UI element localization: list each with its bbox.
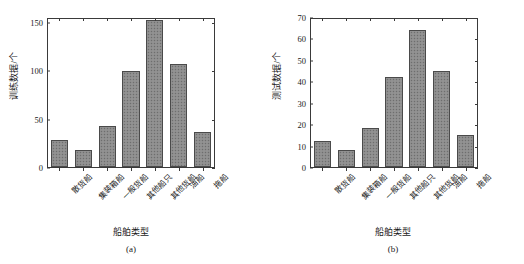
y-tick-mark — [310, 60, 313, 61]
y-tick-label: 20 — [298, 121, 307, 130]
x-tick-mark-top — [131, 18, 132, 21]
bar-column — [48, 19, 72, 167]
x-tick-mark-top — [394, 18, 395, 21]
x-tick-mark — [155, 168, 156, 171]
bar-column — [430, 19, 454, 167]
x-tick-mark — [107, 168, 108, 171]
y-tick-label: 0 — [302, 164, 306, 173]
bar-column — [358, 19, 382, 167]
y-tick-mark — [310, 168, 313, 169]
x-tick-mark-top — [346, 18, 347, 21]
y-tick-mark — [310, 39, 313, 40]
bar — [433, 71, 450, 167]
y-tick-mark — [310, 82, 313, 83]
y-tick-mark-right — [212, 120, 215, 121]
bar — [170, 64, 187, 167]
bar-column — [143, 19, 167, 167]
y-tick-label: 40 — [298, 78, 307, 87]
bar — [362, 128, 379, 167]
x-axis-title-b: 船舶类型 — [262, 225, 524, 238]
y-tick-label: 50 — [298, 57, 307, 66]
y-tick-mark-right — [212, 168, 215, 169]
bar-column — [167, 19, 191, 167]
chart-panel-a: 训练数据/个 050100150 散货船集装箱船一般货船其他船只其他货船油船拖船… — [0, 0, 262, 264]
y-tick-mark-right — [475, 18, 478, 19]
y-tick-label: 100 — [30, 67, 43, 76]
bar-column — [311, 19, 335, 167]
panel-caption-b: (b) — [262, 244, 524, 254]
x-tick-mark-top — [179, 18, 180, 21]
x-tick-mark-top — [418, 18, 419, 21]
bar-column — [190, 19, 214, 167]
chart-panel-b: 测试数据/个 010203040506070 散货船集装箱船一般货船其他船只其他… — [262, 0, 524, 264]
y-tick-mark-right — [475, 125, 478, 126]
y-tick-mark — [47, 119, 50, 120]
bar — [146, 20, 163, 167]
x-tick-label: 其他船只 — [408, 173, 436, 201]
x-tick-mark — [179, 168, 180, 171]
bar-column — [72, 19, 96, 167]
y-tick-mark-right — [212, 71, 215, 72]
x-tick-mark — [83, 168, 84, 171]
bar-column — [119, 19, 143, 167]
x-tick-mark-top — [322, 18, 323, 21]
y-tick-mark — [310, 125, 313, 126]
bar-column — [453, 19, 477, 167]
y-tick-label: 60 — [298, 35, 307, 44]
panel-caption-a: (a) — [0, 244, 262, 254]
x-tick-mark — [131, 168, 132, 171]
y-tick-mark — [47, 22, 50, 23]
x-tick-label: 拖船 — [476, 173, 493, 190]
y-tick-label: 150 — [30, 19, 43, 28]
bar — [194, 132, 211, 167]
plot-area-b — [310, 18, 478, 168]
x-tick-label: 散货船 — [334, 173, 357, 196]
bar-column — [382, 19, 406, 167]
y-tick-mark — [310, 146, 313, 147]
y-tick-label: 10 — [298, 142, 307, 151]
x-tick-mark — [370, 168, 371, 171]
bar-column — [406, 19, 430, 167]
bar — [122, 71, 139, 167]
bar — [75, 150, 92, 167]
x-tick-mark-top — [59, 18, 60, 21]
y-tick-label: 70 — [298, 14, 307, 23]
bar — [338, 150, 355, 167]
x-tick-mark — [346, 168, 347, 171]
x-tick-label: 散货船 — [71, 173, 94, 196]
bar-series-b — [311, 19, 477, 167]
y-tick-label: 50 — [35, 115, 44, 124]
y-tick-mark — [310, 103, 313, 104]
x-tick-mark-top — [466, 18, 467, 21]
y-tick-mark — [47, 168, 50, 169]
bar-column — [95, 19, 119, 167]
x-tick-label: 一般货船 — [121, 173, 149, 201]
x-tick-mark-top — [370, 18, 371, 21]
bar — [51, 140, 68, 167]
x-tick-mark-top — [83, 18, 84, 21]
bar — [409, 30, 426, 167]
x-tick-mark — [418, 168, 419, 171]
x-tick-label: 集装箱船 — [97, 173, 125, 201]
x-tick-mark — [322, 168, 323, 171]
x-tick-mark — [59, 168, 60, 171]
x-tick-mark-top — [155, 18, 156, 21]
bar — [99, 126, 116, 167]
x-tick-label: 一般货船 — [384, 173, 412, 201]
ship-type-distribution-figure: 训练数据/个 050100150 散货船集装箱船一般货船其他船只其他货船油船拖船… — [0, 0, 524, 264]
y-tick-mark-right — [475, 39, 478, 40]
bar-series-a — [48, 19, 214, 167]
x-tick-mark — [442, 168, 443, 171]
y-tick-mark-right — [475, 168, 478, 169]
y-tick-mark — [47, 71, 50, 72]
x-tick-mark — [466, 168, 467, 171]
y-tick-mark-right — [475, 61, 478, 62]
y-tick-mark — [310, 18, 313, 19]
y-tick-label: 0 — [39, 164, 43, 173]
y-tick-mark-right — [212, 23, 215, 24]
y-tick-mark-right — [475, 104, 478, 105]
x-tick-mark-top — [107, 18, 108, 21]
x-tick-mark-top — [203, 18, 204, 21]
x-axis-title-a: 船舶类型 — [0, 225, 262, 238]
x-tick-mark-top — [442, 18, 443, 21]
